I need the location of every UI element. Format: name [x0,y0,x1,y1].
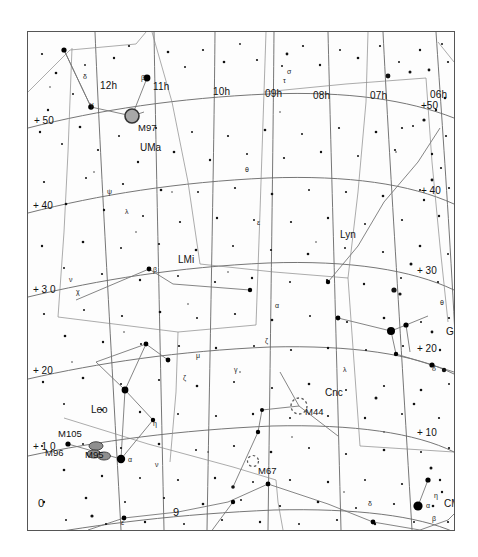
star-beta-gem-pollux [387,327,395,335]
star-zeta-hya [371,520,376,525]
star-alpha-gem-castor [403,322,408,327]
star-mu-gem [336,316,341,321]
star-iota-leo [151,418,155,422]
star-chart-frame: 12h 11h 10h 09h 08h 07h 06h 9 + 50 + 40 … [27,31,455,531]
star-gamma-gem [429,362,434,367]
star-alpha-lyn [326,280,330,284]
star-epsilon-hya [122,516,127,521]
star-alpha-hya [266,482,271,487]
right-ascension-gridlines [95,32,454,530]
star-beta-cmi [425,477,430,482]
object-m97-planetary-nebula [125,109,139,123]
star-delta-leo-zosma [122,387,129,394]
star-delta-cnc [260,408,264,412]
object-m105-galaxy [89,442,103,450]
star-alpha-cmi-procyon [413,501,422,510]
star-beta-cnc [256,430,260,434]
star-chart-page: 12h 11h 10h 09h 08h 07h 06h 9 + 50 + 40 … [0,0,478,557]
deep-sky-objects [87,109,307,467]
star-beta-lmi [147,267,152,272]
star-gamma-uma-phecda [88,104,94,110]
star-theta-leo [144,342,149,347]
star-epsilon-leo [166,358,171,363]
object-m67-open-cluster [248,456,259,467]
star-beta-uma-merak [144,75,151,82]
star-lambda-hya [231,500,235,504]
star-alpha-leo-regulus [117,455,125,463]
star-epsilon-gem [394,352,398,356]
star-alpha-lmi [248,288,252,292]
star-beta-leo [65,441,70,446]
sky-plot [28,32,454,530]
star-delta-uma [61,47,66,52]
object-m95-galaxy [98,452,111,460]
